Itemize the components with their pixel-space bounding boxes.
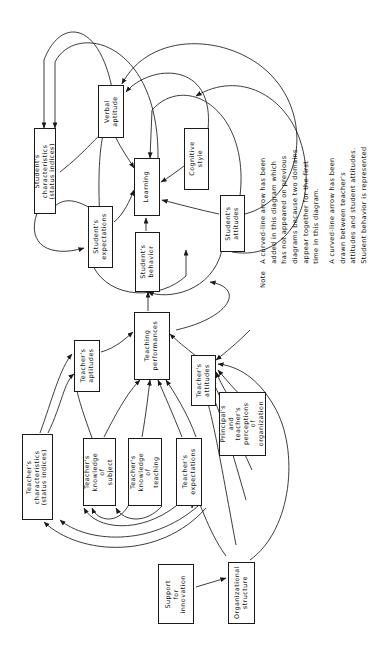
node-student-behavior[interactable]: Student's behavior <box>135 232 160 292</box>
note-paragraph-1: A curved-line arrow has been added in th… <box>258 147 322 264</box>
diagram-canvas: Student's characteristics (status indice… <box>0 0 381 661</box>
arrow-cognitive-to-verbal <box>126 73 209 130</box>
node-label: Teaching performances <box>144 321 159 371</box>
arrow-teacher-attitudes-to-teaching <box>170 334 196 356</box>
node-label: Teacher's expectations <box>181 449 196 496</box>
arrow-student-characteristics-to-expectations <box>34 213 84 251</box>
node-principal-perceptions[interactable]: Principal's and teacher's perceptions of… <box>219 392 266 456</box>
arrow-bottom-arc-2 <box>60 506 198 537</box>
node-cognitive-style[interactable]: Cognitive style <box>184 128 209 190</box>
node-student-expectations[interactable]: Student's expectations <box>88 206 113 268</box>
arrow-verbal-to-learning <box>116 138 134 168</box>
arrow-knowledge-teaching-to-teaching <box>142 380 150 437</box>
node-label: Student's behavior <box>140 245 155 279</box>
arrow-bottom-arc-1 <box>44 508 206 547</box>
node-student-characteristics[interactable]: Student's characteristics (status indice… <box>34 128 56 214</box>
node-label: Support for innovation <box>165 575 188 613</box>
node-label: Student's characteristics (status indice… <box>34 143 57 199</box>
node-label: Learning <box>143 171 151 202</box>
node-teacher-knowledge-teaching[interactable]: Teacher's knowledge of teaching <box>128 438 162 506</box>
node-teacher-attitudes[interactable]: Teacher's attitudes <box>191 355 216 406</box>
node-label: Student's attitudes <box>225 206 240 240</box>
note-label: Note <box>258 271 267 288</box>
note-body: A curved-line arrow has been added in th… <box>258 147 370 264</box>
arrow-expectations-to-characteristics <box>50 201 90 212</box>
connector-layer <box>0 0 381 661</box>
node-label: Organizational structure <box>234 567 249 620</box>
arrow-cognitive-style-to-learning <box>161 166 184 182</box>
arrow-teacher-characteristics-to-aptitudes <box>40 354 72 433</box>
node-label: Principal's and teacher's perceptions of… <box>220 401 265 446</box>
node-label: Verbal aptitude <box>103 96 118 126</box>
node-label: Teacher's knowledge of teaching <box>130 453 160 492</box>
arrow-into-teacher-attitudes-1 <box>216 330 250 360</box>
arrow-group <box>34 32 306 587</box>
arrow-teaching-to-student-attitudes <box>176 282 229 330</box>
arrow-bottom-arc-5 <box>92 506 128 519</box>
node-teacher-characteristics[interactable]: Teacher's characteristics (status indice… <box>22 434 53 520</box>
node-student-attitudes[interactable]: Student's attitudes <box>220 195 245 252</box>
note-block: Note A curved-line arrow has been added … <box>258 118 380 288</box>
node-support-for-innovation[interactable]: Support for innovation <box>158 564 194 624</box>
arrow-support-to-organizational-structure <box>196 578 226 587</box>
node-label: Teacher's aptitudes <box>79 349 94 383</box>
node-verbal-aptitude[interactable]: Verbal aptitude <box>98 85 124 138</box>
arrow-knowledge-subject-to-teaching <box>104 380 140 437</box>
node-organizational-structure[interactable]: Organizational structure <box>228 562 255 624</box>
node-label: Teacher's attitudes <box>196 364 211 398</box>
node-label: Teacher's characteristics (status indice… <box>26 449 49 505</box>
arrow-teacher-expectations-to-teaching <box>158 380 182 437</box>
node-teacher-aptitudes[interactable]: Teacher's aptitudes <box>74 340 100 392</box>
arrow-student-attitudes-to-learning <box>162 200 219 214</box>
node-teacher-knowledge-subject[interactable]: Teacher's knowledge of subject <box>83 438 116 506</box>
node-teaching-performances[interactable]: Teaching performances <box>134 312 170 380</box>
node-label: Student's expectations <box>93 214 108 261</box>
node-learning[interactable]: Learning <box>134 158 160 216</box>
node-label: Cognitive style <box>189 142 204 176</box>
arrow-expectations-to-learning <box>114 190 134 222</box>
node-label: Teacher's knowledge of subject <box>84 453 114 492</box>
node-teacher-expectations[interactable]: Teacher's expectations <box>176 438 202 506</box>
arrow-teacher-aptitudes-to-teaching <box>101 332 133 352</box>
note-paragraph-2: A curved-line arrow has been drawn betwe… <box>327 147 370 264</box>
arrow-teacher-characteristics-to-aptitudes-2 <box>48 374 74 433</box>
